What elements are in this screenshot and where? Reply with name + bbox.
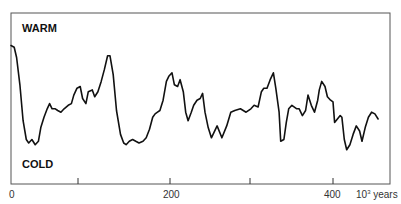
paleoclimate-line-chart: 0 200 400 103 years WARM COLD [0, 0, 401, 204]
x-tick-label-200: 200 [163, 189, 180, 200]
x-axis-unit-label: 103 years [356, 189, 398, 200]
unit-base: 10 [356, 189, 368, 200]
x-tick-label-400: 400 [324, 189, 341, 200]
cold-label: COLD [22, 158, 53, 170]
unit-word: years [370, 189, 397, 200]
warm-label: WARM [22, 22, 57, 34]
temperature-curve [11, 46, 378, 150]
x-axis [78, 178, 333, 184]
x-tick-label-0: 0 [9, 189, 15, 200]
